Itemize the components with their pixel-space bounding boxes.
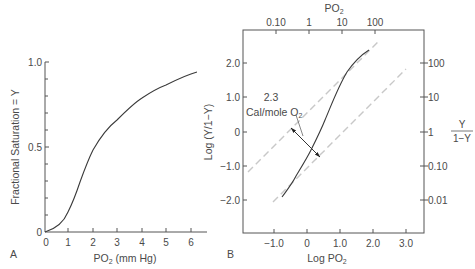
panel-b-toptick-label: 0.10 [266, 17, 286, 28]
panel-b-ytick-label: 1.0 [226, 92, 240, 103]
panel-b-ytick-label: −2.0 [220, 195, 240, 206]
panel-a-x-ticks [68, 228, 191, 232]
panel-b: 2.0 1.0 0 −1.0 −2.0 100 10 1 0.10 0.01 −… [202, 2, 473, 265]
panel-b-y-label: Log (Y/1−Y) [202, 104, 214, 160]
panel-b-hill-curve [282, 50, 369, 197]
panel-a-letter: A [10, 248, 17, 260]
panel-a-ytick-label: 0 [36, 227, 42, 238]
panel-b-energy-arrow [291, 128, 320, 157]
panel-b-x-label: Log PO2 [307, 252, 347, 265]
panel-a-xtick-label: 5 [163, 237, 169, 248]
panel-b-annotation-units: Cal/mole O2 [246, 106, 303, 119]
figure: 1.0 0.5 0 0 1 2 3 4 5 6 Fractional Satur… [0, 0, 475, 269]
panel-b-y2tick-label: 1 [428, 127, 434, 138]
panel-b-y2tick-label: 10 [428, 92, 440, 103]
panel-a-xtick-label: 2 [90, 237, 96, 248]
panel-b-letter: B [227, 248, 234, 260]
panel-a: 1.0 0.5 0 0 1 2 3 4 5 6 Fractional Satur… [9, 57, 207, 265]
panel-a-saturation-curve [45, 72, 197, 232]
panel-b-frame [243, 30, 424, 233]
svg-text:Y: Y [459, 119, 466, 130]
panel-b-toptick-label: 10 [336, 17, 348, 28]
panel-b-xtick-label: 0 [304, 238, 310, 249]
panel-b-ytick-label: 2.0 [226, 58, 240, 69]
panel-a-x-label: PO2 (mm Hg) [94, 252, 157, 265]
panel-b-xtick-label: 1.0 [333, 238, 347, 249]
panel-b-y2tick-label: 100 [428, 58, 445, 69]
svg-text:1−Y: 1−Y [453, 133, 471, 144]
panel-a-ytick-label: 0.5 [28, 142, 42, 153]
panel-a-y-label: Fractional Saturation = Y [9, 89, 21, 205]
panel-b-annotation-value: 2.3 [264, 91, 279, 103]
panel-a-xtick-label: 1 [65, 237, 71, 248]
panel-b-bottom-ticks [274, 229, 406, 233]
panel-b-toptick-label: 1 [306, 17, 312, 28]
panel-b-left-ticks [243, 63, 247, 200]
panel-b-xtick-label: 2.0 [366, 238, 380, 249]
panel-b-xtick-label: −1.0 [264, 238, 284, 249]
panel-b-top-title: PO2 [324, 2, 343, 15]
panel-a-xtick-label: 4 [139, 237, 145, 248]
panel-a-xtick-label: 0 [43, 237, 49, 248]
panel-a-ytick-label: 1.0 [28, 57, 42, 68]
panel-a-xtick-label: 3 [114, 237, 120, 248]
panel-b-y2tick-label: 0.01 [428, 195, 448, 206]
panel-b-y2-label: Y 1−Y [451, 119, 473, 144]
panel-a-y-ticks [45, 62, 49, 215]
panel-b-ytick-label: 0 [234, 127, 240, 138]
panel-b-top-ticks [276, 30, 375, 34]
panel-a-xtick-label: 6 [188, 237, 194, 248]
panel-b-ytick-label: −1.0 [220, 161, 240, 172]
panel-b-y2tick-label: 0.10 [428, 161, 448, 172]
panel-b-toptick-label: 100 [367, 17, 384, 28]
panel-b-xtick-label: 3.0 [399, 238, 413, 249]
